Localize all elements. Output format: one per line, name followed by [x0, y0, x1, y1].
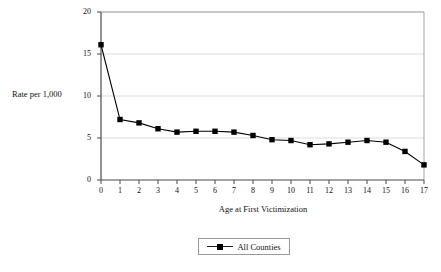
- y-axis-tick-label: 15: [69, 50, 91, 58]
- x-axis-tick-label: 13: [340, 187, 356, 195]
- data-point-marker: [288, 138, 293, 143]
- data-point-marker: [345, 140, 350, 145]
- x-axis-tick-label: 4: [169, 187, 185, 195]
- data-point-marker: [155, 126, 160, 131]
- x-axis-tick-label: 17: [416, 187, 432, 195]
- y-axis-tick-label: 0: [69, 176, 91, 184]
- series-line-all-counties: [101, 45, 424, 165]
- x-axis-tick-label: 5: [188, 187, 204, 195]
- x-axis-tick-label: 7: [226, 187, 242, 195]
- data-point-marker: [402, 149, 407, 154]
- x-axis-tick-label: 15: [378, 187, 394, 195]
- y-axis-tick-label: 10: [69, 92, 91, 100]
- plot-area: [0, 0, 441, 272]
- data-point-marker: [326, 141, 331, 146]
- x-axis-title: Age at First Victimization: [101, 204, 425, 214]
- legend-label: All Counties: [237, 242, 280, 252]
- x-axis-tick-label: 6: [207, 187, 223, 195]
- data-point-marker: [136, 120, 141, 125]
- legend-entry-all-counties: All Counties: [199, 239, 289, 254]
- x-axis-tick-label: 9: [264, 187, 280, 195]
- data-point-marker: [307, 142, 312, 147]
- x-axis-tick-label: 3: [150, 187, 166, 195]
- y-axis-tick-label: 5: [69, 134, 91, 142]
- legend-marker-icon: [207, 242, 233, 251]
- data-point-marker: [117, 117, 122, 122]
- chart-legend: All Counties: [198, 238, 290, 255]
- data-point-marker: [212, 129, 217, 134]
- data-point-marker: [383, 140, 388, 145]
- data-point-marker: [231, 129, 236, 134]
- data-point-marker: [98, 42, 103, 47]
- legend-square-icon: [217, 244, 223, 250]
- data-point-marker: [421, 162, 426, 167]
- x-axis-tick-label: 16: [397, 187, 413, 195]
- x-axis-tick-label: 10: [283, 187, 299, 195]
- x-axis-tick-label: 11: [302, 187, 318, 195]
- x-axis-tick-label: 1: [112, 187, 128, 195]
- x-axis-tick-label: 2: [131, 187, 147, 195]
- x-axis-tick-label: 12: [321, 187, 337, 195]
- data-point-marker: [364, 138, 369, 143]
- x-axis-tick-label: 14: [359, 187, 375, 195]
- y-axis-tick-label: 20: [69, 8, 91, 16]
- data-point-marker: [193, 129, 198, 134]
- data-point-marker: [269, 137, 274, 142]
- data-point-marker: [174, 129, 179, 134]
- chart-container: Rate per 1,000 05101520 0123456789101112…: [0, 0, 441, 272]
- x-axis-tick-label: 8: [245, 187, 261, 195]
- data-point-marker: [250, 133, 255, 138]
- x-axis-tick-label: 0: [93, 187, 109, 195]
